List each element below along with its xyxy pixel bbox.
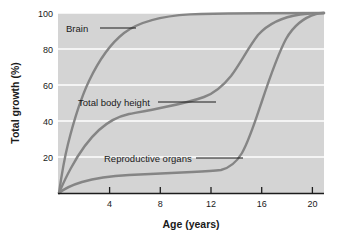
- x-tick-label-20: 20: [307, 199, 317, 209]
- x-tick-label-12: 12: [206, 199, 216, 209]
- annotation-label-brain: Brain: [66, 23, 88, 34]
- y-tick-label-40: 40: [43, 117, 53, 127]
- annotation-label-total-body-height: Total body height: [78, 97, 150, 108]
- x-axis-title: Age (years): [162, 218, 219, 230]
- x-tick-label-4: 4: [107, 199, 112, 209]
- annotation-label-reproductive-organs: Reproductive organs: [104, 153, 192, 164]
- y-tick-label-100: 100: [38, 9, 53, 19]
- y-tick-label-60: 60: [43, 81, 53, 91]
- growth-curves-figure: 4 8 12 16 20 100 80 60 40 20 Age (years)…: [0, 0, 343, 245]
- x-tick-label-16: 16: [257, 199, 267, 209]
- y-tick-label-80: 80: [43, 45, 53, 55]
- chart-svg: 4 8 12 16 20 100 80 60 40 20 Age (years)…: [0, 0, 343, 245]
- y-tick-label-20: 20: [43, 153, 53, 163]
- x-tick-label-8: 8: [158, 199, 163, 209]
- y-axis-title: Total growth (%): [9, 62, 21, 143]
